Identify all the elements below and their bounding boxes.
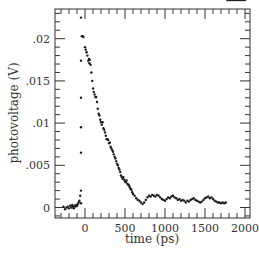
y-axis-label: photovoltage (V) [7, 62, 21, 163]
data-point [92, 87, 94, 89]
data-point [145, 199, 147, 201]
data-point [122, 176, 124, 178]
data-point [117, 164, 119, 166]
data-point [143, 201, 145, 203]
data-point [95, 96, 97, 98]
data-point [79, 194, 81, 196]
data-point [78, 200, 80, 202]
data-point [118, 168, 120, 170]
data-point [91, 80, 93, 82]
scatter-chart: 0500100015002000 0.005.01.015.02 time (p… [0, 0, 259, 254]
data-point [101, 124, 103, 126]
data-point [99, 119, 101, 121]
x-axis-label: time (ps) [125, 232, 179, 246]
data-point [80, 151, 82, 153]
y-tick-label: 0 [43, 202, 50, 215]
data-point [80, 202, 82, 204]
data-point [84, 46, 86, 48]
data-point [97, 108, 99, 110]
data-point [68, 207, 70, 209]
axis-ticks [55, 9, 250, 218]
data-point [93, 93, 95, 95]
data-point [101, 121, 103, 123]
data-point [133, 194, 135, 196]
y-tick-label: .02 [33, 33, 51, 46]
x-tick-label: 0 [82, 222, 89, 235]
plot-frame [55, 9, 250, 218]
y-tick-label: .01 [33, 117, 51, 130]
x-tick-label: 2000 [231, 222, 259, 235]
data-point [96, 101, 98, 103]
data-point [130, 189, 132, 191]
data-point [89, 64, 91, 66]
data-point [125, 179, 127, 181]
data-point [89, 59, 91, 61]
data-point [80, 126, 82, 128]
y-tick-labels: 0.005.01.015.02 [26, 33, 51, 215]
data-point [80, 189, 82, 191]
data-point [107, 139, 109, 141]
data-point [85, 51, 87, 53]
data-point [98, 114, 100, 116]
data-point [90, 71, 92, 73]
data-point [86, 54, 88, 56]
data-point [112, 151, 114, 153]
data-point [80, 16, 82, 18]
data-point [103, 129, 105, 131]
data-point [225, 201, 227, 203]
data-point [93, 91, 95, 93]
data-point [244, 0, 246, 1]
data-point [82, 36, 84, 38]
data-point [80, 97, 82, 99]
data-point [105, 135, 107, 137]
data-point [114, 157, 116, 159]
data-points [62, 0, 246, 210]
data-point [115, 160, 117, 162]
y-tick-label: .005 [26, 159, 51, 172]
data-point [104, 131, 106, 133]
data-point [113, 153, 115, 155]
data-point [80, 59, 82, 61]
data-point [119, 171, 121, 173]
x-tick-label: 1500 [191, 222, 219, 235]
data-point [85, 48, 87, 50]
y-tick-label: .015 [26, 75, 51, 88]
data-point [62, 205, 64, 207]
data-point [109, 141, 111, 143]
